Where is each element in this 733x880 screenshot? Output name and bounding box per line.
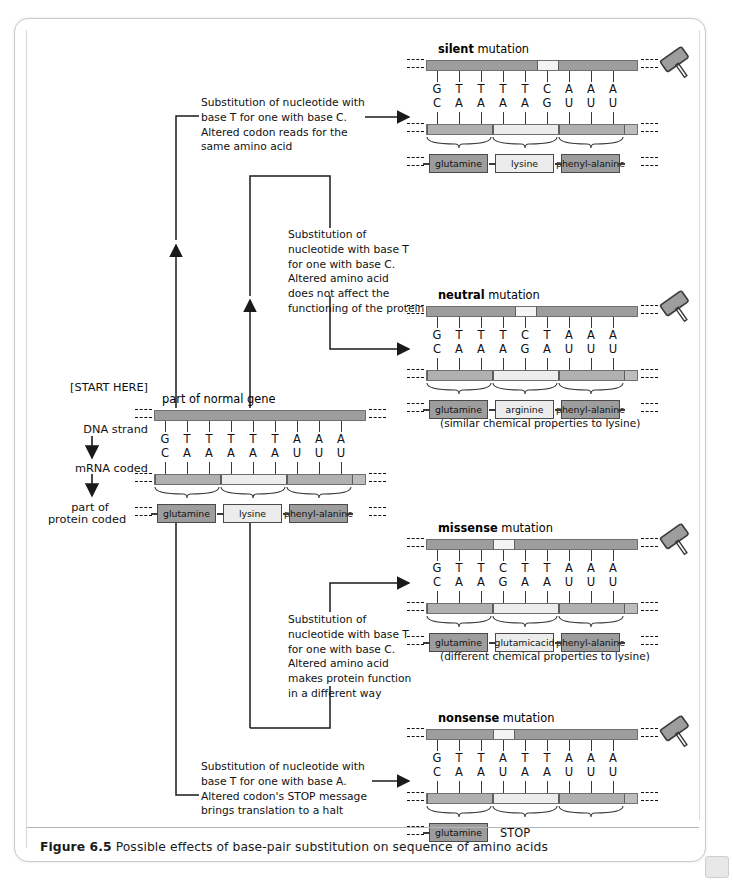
dna-strand-bar (426, 60, 638, 71)
base-tick (459, 71, 460, 82)
base-tick (591, 781, 592, 793)
base-tick (569, 591, 570, 603)
peptide-bond-link (217, 513, 224, 515)
base-letter: G (426, 328, 448, 342)
base-tick (481, 71, 482, 82)
amino-acid-box: glutamicacid (495, 633, 554, 652)
peptide-bond-link (489, 642, 496, 644)
base-letter: G (426, 561, 448, 575)
base-tick (547, 550, 548, 561)
strand-continuation-dashes (641, 602, 658, 611)
hammer-icon (656, 44, 696, 82)
mutated-base-segment (493, 730, 515, 739)
hammer-icon (656, 288, 696, 326)
amino-acid-box: glutamine (429, 400, 488, 419)
base-letter: A (580, 751, 602, 765)
peptide-bond-link (618, 642, 625, 644)
base-letter: G (492, 575, 514, 589)
codon-block (559, 371, 625, 380)
base-tick (503, 71, 504, 82)
base-tick (591, 71, 592, 82)
base-letter: T (176, 432, 198, 446)
dna-base-row: GTTTTCAAA (426, 82, 624, 96)
base-letter: C (492, 561, 514, 575)
amino-acid-box: glutamine (157, 504, 216, 523)
codon-block (559, 604, 625, 613)
base-tick (459, 550, 460, 561)
peptide-bond-link (423, 642, 430, 644)
base-letter: A (602, 328, 624, 342)
strand-continuation-dashes (641, 157, 658, 166)
base-tick (613, 317, 614, 328)
amino-acid-label: lysine (511, 159, 538, 169)
strand-continuation-dashes (407, 792, 424, 801)
base-tick (525, 358, 526, 370)
base-tick (547, 591, 548, 603)
base-tick (481, 317, 482, 328)
base-tick (253, 421, 254, 432)
peptide-bond-link (346, 513, 353, 515)
base-tick (319, 462, 320, 474)
base-letter: A (470, 342, 492, 356)
strand-continuation-dashes (641, 305, 658, 314)
base-letter: T (492, 328, 514, 342)
base-letter: T (470, 751, 492, 765)
base-letter: A (470, 765, 492, 779)
base-tick (591, 358, 592, 370)
strand-continuation-dashes (641, 59, 658, 68)
peptide-bond-link (555, 409, 562, 411)
base-letter: U (558, 342, 580, 356)
base-letter: U (492, 765, 514, 779)
silent-title: silent mutation (438, 42, 529, 56)
base-tick (437, 781, 438, 793)
base-tick (525, 591, 526, 603)
base-tick (547, 317, 548, 328)
base-letter: A (264, 446, 286, 460)
base-tick (481, 358, 482, 370)
base-tick (569, 317, 570, 328)
base-tick (547, 740, 548, 751)
base-tick (503, 591, 504, 603)
codon-block (493, 794, 559, 803)
mrna-base-row: CAAAGAUUU (426, 342, 624, 356)
base-letter: A (602, 82, 624, 96)
base-letter: T (470, 82, 492, 96)
base-letter: C (154, 446, 176, 460)
base-letter: A (602, 751, 624, 765)
strand-continuation-dashes (369, 473, 386, 482)
dna-strand-bar (426, 729, 638, 740)
base-tick (547, 358, 548, 370)
base-tick (459, 781, 460, 793)
base-tick (525, 317, 526, 328)
base-tick (591, 591, 592, 603)
base-letter: A (492, 342, 514, 356)
peptide-bond-link (555, 642, 562, 644)
strand-continuation-dashes (641, 728, 658, 737)
page-corner-tab (705, 856, 729, 878)
base-tick (459, 591, 460, 603)
hammer-icon (656, 713, 696, 751)
amino-acid-box: lysine (495, 154, 554, 173)
codon-braces (426, 382, 648, 396)
strand-continuation-dashes (407, 403, 424, 412)
codon-braces (154, 486, 376, 500)
base-letter: A (492, 96, 514, 110)
base-letter: A (580, 82, 602, 96)
codon-block (221, 475, 287, 484)
nonsense-title: nonsense mutation (438, 711, 554, 725)
base-letter: C (426, 96, 448, 110)
base-tick (503, 740, 504, 751)
mrna-base-row: CAAUAAUUU (426, 765, 624, 779)
dna-strand-bar (426, 539, 638, 550)
base-letter: A (558, 561, 580, 575)
strand-continuation-dashes (407, 369, 424, 378)
base-letter: A (286, 432, 308, 446)
base-tick (591, 317, 592, 328)
description-nonsense: Substitution of nucleotide with base T f… (201, 760, 367, 819)
base-tick (547, 781, 548, 793)
base-tick (525, 740, 526, 751)
strand-continuation-dashes (407, 728, 424, 737)
codon-block (427, 604, 493, 613)
base-tick (437, 317, 438, 328)
base-tick (481, 591, 482, 603)
